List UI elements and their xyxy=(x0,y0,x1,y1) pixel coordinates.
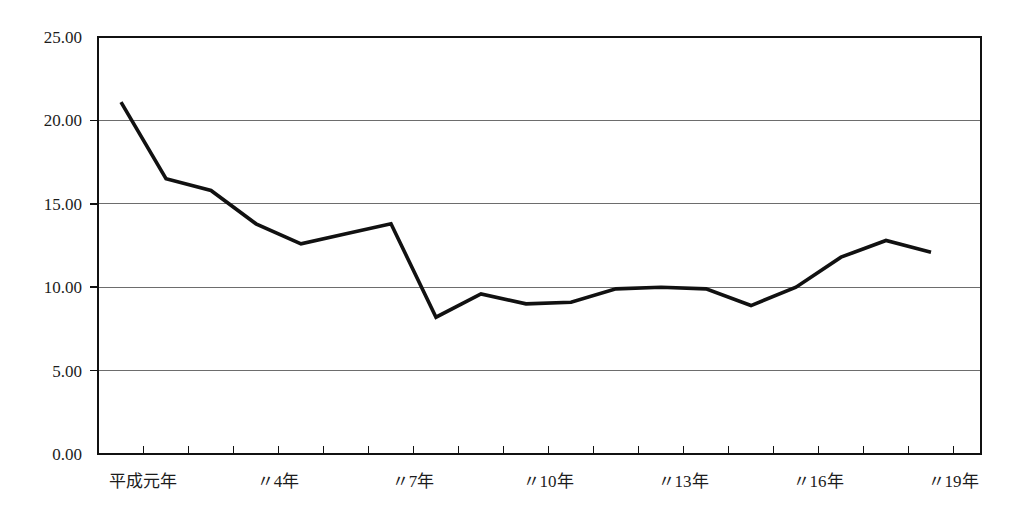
y-tick-label: 10.00 xyxy=(44,278,82,297)
data-series-line xyxy=(121,102,931,317)
x-tick-label: 〃19年 xyxy=(928,472,979,491)
plot-frame xyxy=(98,37,981,454)
y-tick-label: 15.00 xyxy=(44,195,82,214)
y-axis-labels: 25.00 20.00 15.00 10.00 5.00 0.00 xyxy=(44,28,82,464)
y-tick-label: 20.00 xyxy=(44,111,82,130)
x-tick-label: 平成元年 xyxy=(109,472,177,491)
x-tick-label: 〃7年 xyxy=(392,472,435,491)
y-tick-label: 5.00 xyxy=(52,362,82,381)
x-axis-labels: 平成元年 〃4年 〃7年 〃10年 〃13年 〃16年 〃19年 xyxy=(109,472,979,491)
y-tick-label: 0.00 xyxy=(52,445,82,464)
x-tick-label: 〃13年 xyxy=(658,472,709,491)
x-tick-label: 〃10年 xyxy=(523,472,574,491)
y-tick-label: 25.00 xyxy=(44,28,82,47)
gridlines xyxy=(98,120,981,370)
x-tick-label: 〃16年 xyxy=(793,472,844,491)
chart-container: 25.00 20.00 15.00 10.00 5.00 0.00 平成元年 〃… xyxy=(0,0,1015,522)
x-tick-label: 〃4年 xyxy=(257,472,300,491)
chart-plot-area: 25.00 20.00 15.00 10.00 5.00 0.00 平成元年 〃… xyxy=(0,0,1015,522)
